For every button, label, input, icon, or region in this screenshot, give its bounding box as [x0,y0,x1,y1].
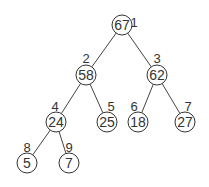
node-value: 5 [23,155,31,171]
node-value: 18 [130,114,146,130]
tree-edge [92,33,116,67]
tree-edge [33,130,50,155]
node-value: 27 [177,114,193,130]
node-index-label: 5 [107,99,114,114]
tree-edge [128,33,152,67]
node-value: 58 [78,67,94,83]
tree-node: 79 [59,140,79,173]
node-index-label: 8 [23,140,30,155]
node-index-label: 7 [184,99,191,114]
tree-node: 671 [112,15,138,35]
tree-edge [142,84,154,112]
tree-node: 582 [76,51,96,85]
node-value: 7 [65,155,73,171]
tree-edge [90,84,103,113]
node-index-label: 4 [51,99,58,114]
tree-edge [162,84,180,114]
tree-node: 244 [46,99,66,132]
tree-node: 277 [175,99,195,132]
node-value: 67 [114,17,130,33]
node-value: 25 [99,114,115,130]
tree-node: 623 [147,51,167,85]
heap-tree-diagram: 6715826232442551862775879 [0,0,209,187]
node-index-label: 3 [153,51,160,66]
node-index-label: 9 [65,140,72,155]
node-value: 24 [48,114,64,130]
tree-node: 255 [97,99,117,132]
tree-node: 58 [17,140,37,173]
node-index-label: 6 [130,99,137,114]
node-value: 62 [149,67,165,83]
tree-edge [61,83,80,113]
node-index-label: 1 [130,15,137,30]
node-index-label: 2 [82,51,89,66]
